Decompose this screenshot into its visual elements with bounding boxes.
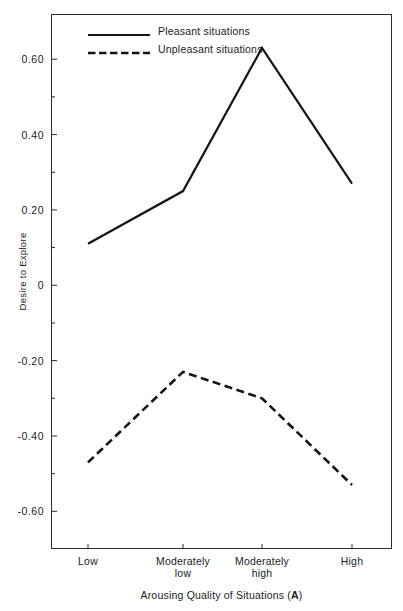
x-tick-label-line: high <box>207 568 317 580</box>
chart-legend: Pleasant situations Unpleasant situation… <box>88 22 318 58</box>
legend-swatch-dashed <box>88 44 150 54</box>
x-tick-label: High <box>297 556 403 568</box>
x-tick-label-line: High <box>297 556 403 568</box>
x-axis-title-factor: A <box>291 589 299 601</box>
series-line-unpleasant <box>88 372 352 485</box>
y-tick-label: -0.40 <box>0 430 44 442</box>
legend-item-pleasant: Pleasant situations <box>88 22 318 40</box>
chart-figure: 0.600.400.200-0.20-0.40-0.60 Desire to E… <box>0 0 403 611</box>
x-tick-label-line: Low <box>33 556 143 568</box>
plot-lines <box>51 14 392 549</box>
y-tick-label: -0.60 <box>0 505 44 517</box>
legend-label-pleasant: Pleasant situations <box>158 25 250 37</box>
legend-item-unpleasant: Unpleasant situations <box>88 40 318 58</box>
x-axis-title: Arousing Quality of Situations (A) <box>51 589 392 601</box>
y-tick-label: -0.20 <box>0 355 44 367</box>
legend-label-unpleasant: Unpleasant situations <box>158 43 263 55</box>
y-axis-title: Desire to Explore <box>17 212 28 332</box>
series-line-pleasant <box>88 48 352 244</box>
legend-swatch-solid <box>88 26 150 36</box>
y-tick-label: 0.60 <box>0 53 44 65</box>
y-tick-label: 0.40 <box>0 129 44 141</box>
x-tick-label: Low <box>33 556 143 568</box>
